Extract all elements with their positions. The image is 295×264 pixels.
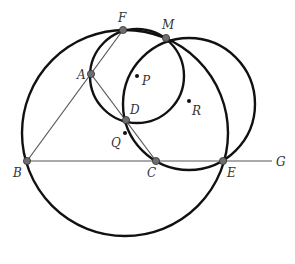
point-D — [122, 116, 129, 123]
label-Q: Q — [111, 136, 121, 150]
label-M: M — [161, 18, 175, 32]
label-C: C — [147, 166, 156, 180]
circle-R — [123, 38, 255, 170]
point-B — [23, 157, 30, 164]
label-E: E — [226, 166, 236, 180]
point-F — [119, 26, 126, 33]
point-A — [87, 70, 94, 77]
diagram-canvas: FMADBCEPQRG — [0, 0, 295, 264]
segment-BF — [27, 30, 123, 161]
label-R: R — [191, 104, 201, 118]
label-F: F — [117, 11, 127, 25]
point-M — [162, 34, 169, 41]
label-P: P — [141, 74, 151, 88]
center-point-R — [187, 99, 191, 103]
label-A: A — [76, 68, 86, 82]
label-B: B — [12, 166, 22, 180]
point-E — [219, 157, 226, 164]
geometry-diagram: FMADBCEPQRG — [0, 0, 295, 264]
center-point-Q — [123, 131, 127, 135]
point-C — [152, 157, 159, 164]
center-point-P — [135, 74, 139, 78]
label-D: D — [129, 103, 140, 117]
label-G: G — [276, 155, 286, 169]
